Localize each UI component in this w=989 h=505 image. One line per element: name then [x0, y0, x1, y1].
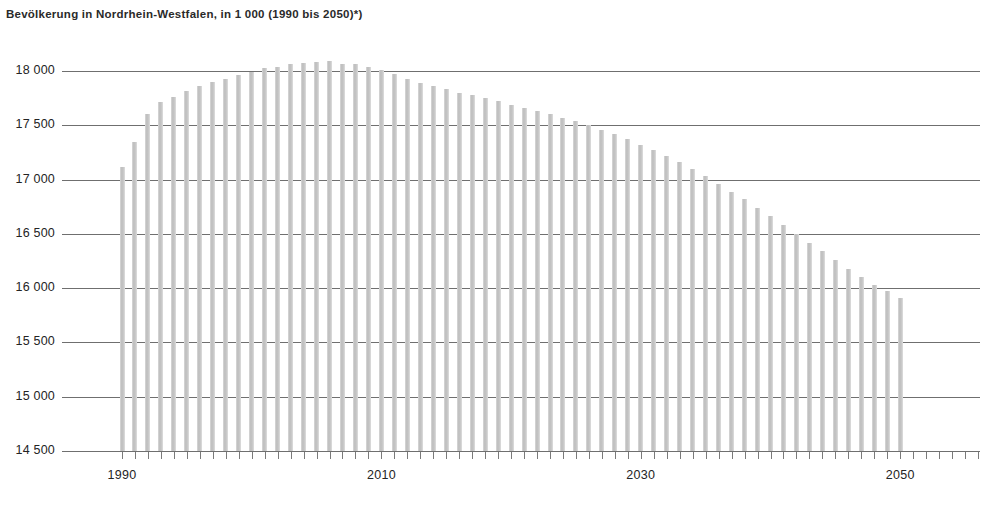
- xtick-mark: [576, 452, 577, 459]
- bar-1994: [171, 97, 176, 451]
- xtick-mark: [654, 452, 655, 459]
- xtick-mark: [355, 452, 356, 459]
- xtick-mark: [511, 452, 512, 459]
- xtick-mark: [252, 452, 253, 459]
- xtick-mark: [589, 452, 590, 459]
- xtick-mark: [913, 452, 914, 459]
- xtick-mark: [822, 452, 823, 459]
- bars-group: [0, 0, 989, 505]
- bar-2004: [301, 63, 306, 451]
- xtick-mark: [446, 452, 447, 459]
- bar-2049: [885, 291, 890, 451]
- bar-2036: [716, 184, 721, 451]
- xtick-label-2010: 2010: [367, 468, 396, 482]
- bar-2035: [703, 176, 708, 451]
- xtick-mark: [667, 452, 668, 459]
- xtick-label-2050: 2050: [886, 468, 915, 482]
- bar-2009: [366, 67, 371, 451]
- bar-2015: [444, 89, 449, 451]
- xtick-mark: [291, 452, 292, 459]
- bar-2044: [820, 251, 825, 451]
- xtick-mark: [783, 452, 784, 459]
- xtick-mark: [161, 452, 162, 459]
- xtick-mark: [187, 452, 188, 459]
- xtick-mark: [719, 452, 720, 459]
- bar-2022: [535, 111, 540, 451]
- bar-2045: [833, 260, 838, 451]
- xtick-mark: [317, 452, 318, 459]
- bar-2046: [846, 269, 851, 451]
- bar-2011: [392, 74, 397, 451]
- bar-2002: [275, 67, 280, 451]
- bar-2038: [742, 199, 747, 451]
- xtick-mark: [174, 452, 175, 459]
- xtick-mark: [368, 452, 369, 459]
- xtick-mark: [874, 452, 875, 459]
- xtick-mark: [304, 452, 305, 459]
- bar-2005: [314, 62, 319, 451]
- bar-2006: [327, 61, 332, 451]
- xtick-mark: [848, 452, 849, 459]
- x-axis-line: [80, 451, 980, 452]
- bar-2048: [872, 285, 877, 451]
- xtick-mark: [563, 452, 564, 459]
- xtick-mark: [641, 452, 642, 459]
- xtick-mark: [628, 452, 629, 459]
- bar-1993: [158, 102, 163, 451]
- population-bar-chart: Bevölkerung in Nordrhein-Westfalen, in 1…: [0, 0, 989, 505]
- bar-2017: [470, 95, 475, 451]
- bar-2028: [612, 134, 617, 451]
- bar-2013: [418, 83, 423, 451]
- xtick-mark: [758, 452, 759, 459]
- bar-2012: [405, 79, 410, 451]
- bar-2016: [457, 93, 462, 451]
- xtick-mark: [680, 452, 681, 459]
- xtick-mark: [887, 452, 888, 459]
- xtick-mark: [135, 452, 136, 459]
- bar-2030: [638, 145, 643, 451]
- bar-2043: [807, 243, 812, 451]
- xtick-mark: [978, 452, 979, 459]
- bar-2026: [586, 125, 591, 451]
- plot-area: 18 00017 50017 00016 50016 00015 50015 0…: [0, 0, 989, 505]
- xtick-label-1990: 1990: [107, 468, 136, 482]
- bar-2025: [573, 121, 578, 451]
- xtick-mark: [835, 452, 836, 459]
- bar-2039: [755, 208, 760, 451]
- bar-2032: [664, 156, 669, 451]
- xtick-mark: [550, 452, 551, 459]
- bar-2024: [560, 118, 565, 451]
- xtick-mark: [330, 452, 331, 459]
- bar-2047: [859, 277, 864, 451]
- xtick-mark: [809, 452, 810, 459]
- bar-2000: [249, 72, 254, 451]
- bar-2007: [340, 64, 345, 451]
- xtick-mark: [381, 452, 382, 459]
- xtick-mark: [602, 452, 603, 459]
- xtick-mark: [900, 452, 901, 459]
- bar-2040: [768, 216, 773, 451]
- xtick-mark: [706, 452, 707, 459]
- bar-1990: [120, 167, 125, 451]
- xtick-mark: [952, 452, 953, 459]
- bar-2034: [690, 169, 695, 451]
- bar-2003: [288, 64, 293, 451]
- xtick-mark: [265, 452, 266, 459]
- xtick-mark: [148, 452, 149, 459]
- xtick-mark: [537, 452, 538, 459]
- bar-2033: [677, 162, 682, 451]
- xtick-mark: [524, 452, 525, 459]
- bar-2019: [496, 101, 501, 451]
- xtick-mark: [459, 452, 460, 459]
- xtick-mark: [239, 452, 240, 459]
- bar-2037: [729, 192, 734, 451]
- xtick-mark: [407, 452, 408, 459]
- xtick-mark: [771, 452, 772, 459]
- bar-2042: [794, 234, 799, 451]
- xtick-mark: [965, 452, 966, 459]
- xtick-mark: [200, 452, 201, 459]
- bar-2001: [262, 68, 267, 451]
- xtick-mark: [939, 452, 940, 459]
- bar-2021: [522, 108, 527, 451]
- xtick-mark: [796, 452, 797, 459]
